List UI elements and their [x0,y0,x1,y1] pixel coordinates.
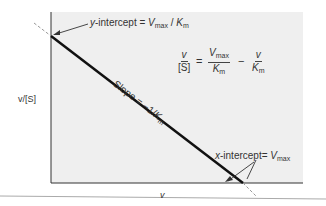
x-extension-dash [243,183,257,197]
y-intercept-label: y-intercept = Vmax / Km [90,17,189,29]
y-axis-label: v/[S] [18,94,36,104]
y-intercept-arrowhead [53,30,60,35]
y-extension-dash [34,23,51,36]
x-intercept-arrowhead [225,176,233,182]
equation-equals: = [196,55,202,67]
equation-lhs: v [S] [178,49,190,74]
equation-term1: Vmax Km [208,47,230,78]
equation-term2: v Km [252,49,265,77]
y-intercept-arrow [56,24,88,34]
eadie-hofstee-diagram: y-intercept = Vmax / Km v/[S] v Slope = … [0,0,326,206]
equation-minus: − [238,55,244,67]
x-intercept-arrow-shaft [247,160,256,179]
plot-lines [0,0,326,206]
x-axis-label: v [160,190,165,200]
x-intercept-label: x-intercept= Vmax [215,150,290,162]
